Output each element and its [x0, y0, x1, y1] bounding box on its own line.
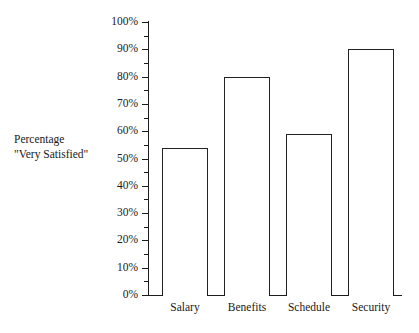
x-axis-tick-label-security: Security	[334, 300, 408, 314]
x-axis-tick-benefits-left	[224, 290, 225, 296]
y-axis-minor-tick-45	[144, 172, 149, 173]
x-axis-tick-security-right	[393, 290, 394, 296]
bar-schedule	[286, 134, 332, 296]
y-axis-tick-label-wrap-40: 40%	[96, 186, 138, 187]
y-axis-minor-tick-15	[144, 254, 149, 255]
y-axis-title-line-1: Percentage	[14, 132, 106, 147]
y-axis-minor-tick-35	[144, 199, 149, 200]
y-axis-major-tick-0	[142, 295, 149, 296]
y-axis-major-tick-50	[142, 159, 149, 160]
y-axis-tick-label-0: 0%	[98, 289, 138, 301]
y-axis-major-tick-80	[142, 77, 149, 78]
y-axis-tick-label-80: 80%	[98, 71, 138, 83]
y-axis-tick-label-70: 70%	[98, 98, 138, 110]
y-axis-minor-tick-65	[144, 118, 149, 119]
y-axis-tick-label-90: 90%	[98, 43, 138, 55]
y-axis-tick-label-20: 20%	[98, 234, 138, 246]
bar-chart: Percentage "Very Satisfied" 0%10%20%30%4…	[0, 0, 419, 333]
y-axis-tick-label-30: 30%	[98, 207, 138, 219]
y-axis-minor-tick-55	[144, 145, 149, 146]
y-axis-title-line-2: "Very Satisfied"	[14, 147, 106, 162]
y-axis-tick-label-wrap-0: 0%	[96, 295, 138, 296]
y-axis-tick-label-wrap-30: 30%	[96, 213, 138, 214]
y-axis-major-tick-10	[142, 268, 149, 269]
bar-security	[348, 49, 394, 296]
y-axis-major-tick-20	[142, 240, 149, 241]
bar-salary	[162, 148, 208, 296]
y-axis-minor-tick-85	[144, 63, 149, 64]
x-axis-tick-benefits-right	[269, 290, 270, 296]
y-axis-tick-label-50: 50%	[98, 153, 138, 165]
y-axis-major-tick-30	[142, 213, 149, 214]
y-axis-minor-tick-75	[144, 90, 149, 91]
y-axis-minor-tick-95	[144, 36, 149, 37]
x-axis-tick-salary-left	[162, 290, 163, 296]
y-axis-tick-label-wrap-10: 10%	[96, 268, 138, 269]
y-axis-major-tick-60	[142, 131, 149, 132]
x-axis-tick-schedule-left	[286, 290, 287, 296]
y-axis-tick-label-wrap-50: 50%	[96, 159, 138, 160]
y-axis-tick-label-wrap-60: 60%	[96, 131, 138, 132]
x-axis-tick-salary-right	[207, 290, 208, 296]
x-axis-tick-security-left	[348, 290, 349, 296]
y-axis-major-tick-90	[142, 49, 149, 50]
y-axis-tick-label-wrap-20: 20%	[96, 240, 138, 241]
y-axis-tick-label-wrap-70: 70%	[96, 104, 138, 105]
y-axis-title: Percentage "Very Satisfied"	[14, 132, 106, 162]
y-axis-tick-label-10: 10%	[98, 262, 138, 274]
y-axis-tick-label-60: 60%	[98, 125, 138, 137]
y-axis-major-tick-100	[142, 22, 149, 23]
y-axis-tick-label-wrap-80: 80%	[96, 77, 138, 78]
y-axis-tick-label-wrap-90: 90%	[96, 49, 138, 50]
y-axis-minor-tick-5	[144, 281, 149, 282]
y-axis-major-tick-40	[142, 186, 149, 187]
bar-benefits	[224, 77, 270, 296]
y-axis-tick-label-40: 40%	[98, 180, 138, 192]
y-axis-tick-label-100: 100%	[98, 16, 138, 28]
y-axis-tick-label-wrap-100: 100%	[96, 22, 138, 23]
y-axis-minor-tick-25	[144, 227, 149, 228]
y-axis-major-tick-70	[142, 104, 149, 105]
x-axis-tick-schedule-right	[331, 290, 332, 296]
